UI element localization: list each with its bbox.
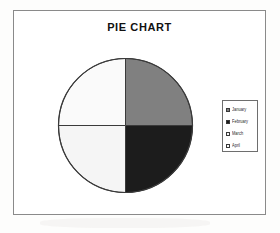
legend-item[interactable]: April xyxy=(226,140,255,151)
legend-item[interactable]: February xyxy=(226,116,255,127)
pie-slice[interactable] xyxy=(126,59,193,126)
pie-svg xyxy=(57,57,194,194)
pie-chart xyxy=(57,57,194,194)
legend-item[interactable]: March xyxy=(226,128,255,139)
chart-title: PIE CHART xyxy=(14,21,265,33)
pie-slice[interactable] xyxy=(59,126,126,193)
legend-swatch-icon xyxy=(226,108,230,112)
legend-swatch-icon xyxy=(226,132,230,136)
legend-label: April xyxy=(232,143,240,149)
pie-slice[interactable] xyxy=(59,58,126,125)
legend-item[interactable]: January xyxy=(226,104,255,115)
legend: January February March April xyxy=(222,100,258,152)
page-background: PIE CHART January February March A xyxy=(0,0,280,233)
chart-frame: PIE CHART January February March A xyxy=(13,10,266,215)
legend-swatch-icon xyxy=(226,120,230,124)
scan-smudge xyxy=(40,218,210,228)
pie-slice[interactable] xyxy=(126,126,193,193)
legend-swatch-icon xyxy=(226,144,230,148)
legend-label: February xyxy=(232,119,248,125)
legend-label: March xyxy=(232,131,243,137)
pie-slices xyxy=(59,58,193,192)
legend-label: January xyxy=(232,107,246,113)
